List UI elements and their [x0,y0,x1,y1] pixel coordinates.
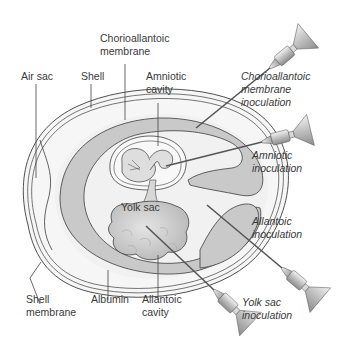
label-amniotic-cavity-1: Amniotic [146,70,186,82]
label-air-sac: Air sac [21,70,53,82]
label-allantoic-cavity-2: cavity [142,306,170,318]
label-yolk-inoculation-1: Yolk sac [242,296,282,308]
label-shell-membrane-1: Shell [26,293,49,305]
label-cam-inoculation-1: Chorioallantoic [241,70,311,82]
label-cam-inoculation-3: inoculation [241,96,291,108]
label-chorioallantoic-membrane-1: Chorioallantoic [100,32,169,44]
label-chorioallantoic-membrane-2: membrane [100,45,150,57]
label-amniotic-cavity-2: cavity [146,83,174,95]
label-amniotic-inoculation-1: Amniotic [251,149,293,161]
label-allantoic-inoculation-2: inoculation [252,228,302,240]
egg-inoculation-diagram: Chorioallantoic membrane Air sac Shell A… [0,0,343,351]
label-yolk-sac: Yolk sac [121,201,160,213]
label-amniotic-inoculation-2: inoculation [252,162,302,174]
label-yolk-inoculation-2: inoculation [242,309,292,321]
label-cam-inoculation-2: membrane [241,83,291,95]
label-shell-membrane-2: membrane [26,306,76,318]
label-allantoic-inoculation-1: Allantoic [251,215,292,227]
label-allantoic-cavity-1: Allantoic [142,293,182,305]
label-albumin: Albumin [91,293,129,305]
label-shell: Shell [81,70,104,82]
